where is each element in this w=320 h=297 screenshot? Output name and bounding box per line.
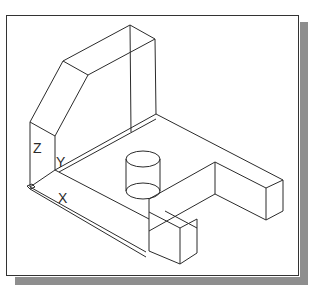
ucs-x-label: X	[58, 190, 68, 206]
cylinder-hole	[126, 151, 160, 199]
left-prong	[149, 199, 197, 264]
wireframe-drawing: Z Y X	[0, 0, 320, 297]
right-prong	[266, 180, 283, 220]
back-wall	[30, 25, 156, 187]
base-plate	[30, 114, 283, 257]
ucs-y-label: Y	[56, 154, 66, 170]
ucs-icon: Z Y X	[27, 140, 68, 206]
ucs-z-label: Z	[33, 140, 42, 156]
